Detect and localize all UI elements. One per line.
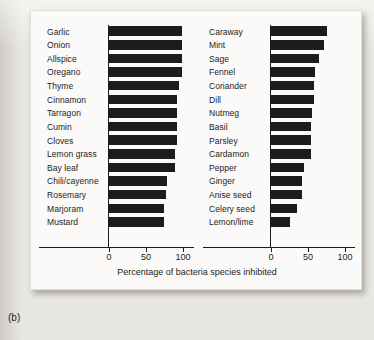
bar-category-label: Bay leaf (39, 164, 108, 173)
bar-track (108, 175, 194, 189)
bar-track (108, 93, 194, 107)
bar-row: Onion (39, 39, 194, 53)
bar (270, 108, 312, 118)
bar-track (270, 80, 355, 94)
bar-chart-plot-area: GarlicOnionAllspiceOreganoThymeCinnamonT… (31, 11, 363, 291)
bar-rows-left: GarlicOnionAllspiceOreganoThymeCinnamonT… (39, 25, 194, 243)
bar-track (108, 216, 194, 230)
bar-row: Bay leaf (39, 161, 194, 175)
bar (270, 176, 302, 186)
x-axis-label: Percentage of bacteria species inhibited (31, 267, 363, 277)
bar-category-label: Cumin (39, 123, 108, 132)
bar-row: Fennel (203, 66, 355, 80)
axis-tick-label: 50 (303, 253, 313, 262)
bar-track (270, 216, 355, 230)
bar-row: Lemon grass (39, 148, 194, 162)
bar-category-label: Parsley (203, 137, 270, 146)
bar-category-label: Nutmeg (203, 109, 270, 118)
bar-row: Coriander (203, 80, 355, 94)
bar-category-label: Cardamon (203, 150, 270, 159)
bar (270, 135, 311, 145)
bar-category-label: Coriander (203, 82, 270, 91)
bar-row: Mint (203, 39, 355, 53)
bar (108, 81, 179, 91)
axis-tick-label: 0 (106, 253, 111, 262)
bar-track (270, 202, 355, 216)
bar-category-label: Fennel (203, 68, 270, 77)
bar (108, 176, 167, 186)
axis-tick-label: 100 (337, 253, 352, 262)
bar-category-label: Tarragon (39, 109, 108, 118)
bar-category-label: Chili/cayenne (39, 177, 108, 186)
bar (270, 149, 311, 159)
bar-category-label: Sage (203, 55, 270, 64)
figure-caption: (b) (8, 312, 20, 323)
bar-category-label: Dill (203, 96, 270, 105)
figure-card: GarlicOnionAllspiceOreganoThymeCinnamonT… (30, 10, 362, 290)
bar-row: Cumin (39, 120, 194, 134)
bar (108, 122, 177, 132)
bar-category-label: Basil (203, 123, 270, 132)
bar-category-label: Thyme (39, 82, 108, 91)
bar-row: Chili/cayenne (39, 175, 194, 189)
bar (108, 190, 166, 200)
bar-row: Cloves (39, 134, 194, 148)
bar (270, 81, 314, 91)
bar-category-label: Pepper (203, 164, 270, 173)
bar-row: Lemon/lime (203, 216, 355, 230)
bar (108, 67, 182, 77)
bar-row: Thyme (39, 80, 194, 94)
bar-row: Pepper (203, 161, 355, 175)
bar (108, 204, 164, 214)
bar-track (108, 25, 194, 39)
value-axis-right (203, 247, 355, 248)
bar-category-label: Anise seed (203, 191, 270, 200)
bar-row: Tarragon (39, 107, 194, 121)
bar-category-label: Oregano (39, 68, 108, 77)
bar-track (270, 134, 355, 148)
bar-category-label: Caraway (203, 28, 270, 37)
bar-row: Cardamon (203, 148, 355, 162)
bar-track (108, 80, 194, 94)
bar-category-label: Cinnamon (39, 96, 108, 105)
bar (108, 26, 182, 36)
bar-row: Rosemary (39, 189, 194, 203)
bar-row: Basil (203, 120, 355, 134)
bar-track (270, 161, 355, 175)
bar-track (270, 175, 355, 189)
bar (108, 163, 175, 173)
bar-row: Garlic (39, 25, 194, 39)
bar (108, 135, 177, 145)
chart-panel-right: CarawayMintSageFennelCorianderDillNutmeg… (203, 25, 355, 257)
bar (108, 149, 175, 159)
bar (270, 54, 319, 64)
bar (270, 204, 297, 214)
bar-category-label: Ginger (203, 177, 270, 186)
category-axis-right (270, 25, 271, 247)
bar (270, 122, 311, 132)
bar-track (270, 107, 355, 121)
bar (108, 217, 164, 227)
bar-track (108, 107, 194, 121)
bar-row: Celery seed (203, 202, 355, 216)
bar-track (108, 52, 194, 66)
bar-row: Dill (203, 93, 355, 107)
bar (108, 108, 177, 118)
bar-category-label: Onion (39, 41, 108, 50)
bar (270, 40, 324, 50)
bar-row: Anise seed (203, 189, 355, 203)
bar-rows-right: CarawayMintSageFennelCorianderDillNutmeg… (203, 25, 355, 243)
bar (270, 67, 315, 77)
bar-category-label: Rosemary (39, 191, 108, 200)
bar (270, 217, 290, 227)
bar-category-label: Mustard (39, 218, 108, 227)
bar (270, 26, 327, 36)
bar (108, 54, 182, 64)
bar (108, 95, 177, 105)
bar-category-label: Marjoram (39, 205, 108, 214)
bar-category-label: Mint (203, 41, 270, 50)
bar-category-label: Garlic (39, 28, 108, 37)
bar (108, 40, 182, 50)
bar-row: Cinnamon (39, 93, 194, 107)
bar-row: Marjoram (39, 202, 194, 216)
